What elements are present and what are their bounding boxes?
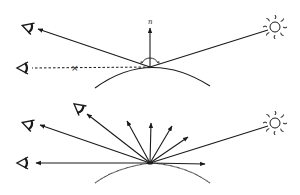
- reflection-angle-arc: [142, 58, 150, 63]
- blocked-marker: ×: [71, 63, 79, 73]
- scatter-ray: [150, 137, 188, 163]
- incident-ray: [150, 126, 268, 163]
- reflection-diagram: n ×: [0, 0, 300, 195]
- sun-icon: [263, 111, 287, 135]
- specular-surface: [95, 67, 210, 88]
- diffuse-reflection-diagram: [17, 99, 287, 183]
- reflection-point: [147, 162, 153, 165]
- scatter-rays: [36, 114, 205, 164]
- incidence-angle-arc: [150, 58, 158, 63]
- eye-icon: [17, 157, 28, 169]
- eye-icon: [20, 117, 34, 132]
- normal-label: n: [148, 18, 153, 26]
- diffuse-surface: [95, 163, 210, 183]
- angle-tick-icon: [158, 61, 160, 63]
- scatter-ray: [87, 114, 150, 163]
- angle-tick-icon: [140, 61, 142, 63]
- specular-reflection-diagram: n ×: [17, 15, 287, 88]
- incident-ray: [150, 30, 268, 67]
- eye-icon: [20, 20, 34, 35]
- scatter-ray: [40, 125, 150, 163]
- reflected-ray: [38, 29, 150, 67]
- sun-icon: [263, 15, 287, 39]
- eye-icon: [17, 62, 28, 74]
- scatter-ray: [150, 123, 151, 163]
- eye-icon: [70, 99, 86, 115]
- blocked-ray: [32, 67, 150, 68]
